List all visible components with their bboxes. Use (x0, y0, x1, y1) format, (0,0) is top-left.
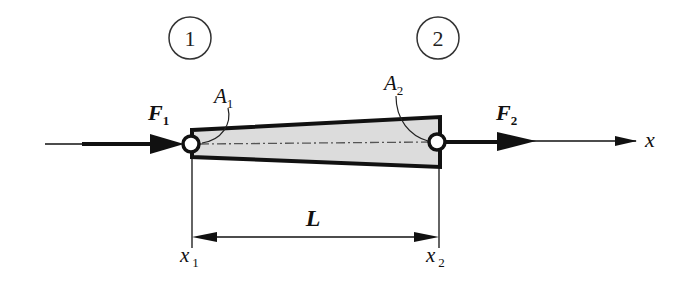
force-arrowhead (497, 132, 536, 151)
force-label-f1: F1 (147, 100, 169, 128)
node-number-label: 2 (433, 26, 444, 51)
dimension-arrowhead-right (414, 232, 439, 242)
x-axis-label: x (644, 127, 655, 152)
tapered-bar (192, 117, 440, 167)
node-2 (429, 134, 445, 150)
bar-element-diagram: 1 2 x F1 F2 A1 A2 L x1 (0, 0, 686, 285)
force-arrow-f2 (446, 132, 536, 151)
coordinate-label-x1: x1 (179, 243, 199, 270)
node-1 (183, 136, 199, 152)
node-number-label: 1 (185, 26, 196, 51)
area-label-a1: A1 (212, 84, 233, 111)
force-arrow-f1 (82, 134, 184, 154)
coordinate-label-x2: x2 (425, 243, 445, 270)
force-arrowhead (150, 134, 184, 154)
dimension-arrowhead-left (192, 232, 217, 242)
node-number-1: 1 (169, 17, 211, 59)
area-label-a2: A2 (382, 71, 403, 98)
length-label: L (305, 205, 321, 231)
node-number-2: 2 (417, 17, 459, 59)
force-label-f2: F2 (495, 100, 517, 128)
